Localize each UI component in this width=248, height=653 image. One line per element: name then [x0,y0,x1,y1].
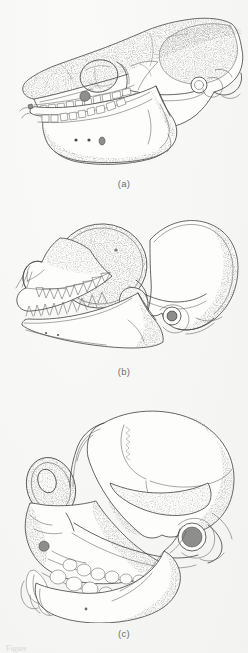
skull-drawing-c [0,395,248,623]
figure-caption-text: Figure [6,644,242,653]
figure-panel-b [0,200,248,360]
figure-panel-a [0,4,248,174]
figure-page: (a) [0,0,248,653]
skull-drawing-a [0,4,248,176]
panel-b-caption: (b) [0,366,248,377]
figure-panel-c [0,395,248,620]
skull-drawing-b [0,200,248,362]
panel-c-caption: (c) [0,628,248,639]
panel-a-caption: (a) [0,178,248,189]
